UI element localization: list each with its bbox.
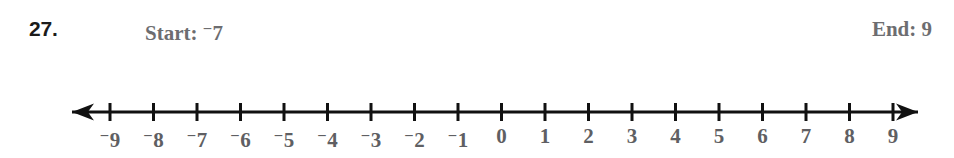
tick-label: −4 xyxy=(317,125,337,151)
tick-labels: −9−8−7−6−5−4−3−2−10123456789 xyxy=(0,88,954,158)
number-line-figure: −9−8−7−6−5−4−3−2−10123456789 xyxy=(0,88,954,158)
tick-label-negative-sign: − xyxy=(274,126,284,145)
tick-label: 9 xyxy=(888,125,899,147)
tick-label-number: 7 xyxy=(197,128,208,152)
start-negative-sign: − xyxy=(203,19,213,38)
problem-number: 27. xyxy=(29,18,58,40)
tick-label: −7 xyxy=(187,125,207,151)
tick-label: −6 xyxy=(230,125,250,151)
problem-header: 27. Start: −7 End: 9 xyxy=(0,0,954,58)
tick-label-negative-sign: − xyxy=(361,126,371,145)
end-text: End: xyxy=(872,17,916,41)
tick-label-negative-sign: − xyxy=(230,126,240,145)
end-value-label: End: 9 xyxy=(872,18,932,40)
end-number: 9 xyxy=(922,17,933,41)
start-value-label: Start: −7 xyxy=(145,18,223,44)
tick-label: −3 xyxy=(361,125,381,151)
tick-label: −2 xyxy=(404,125,424,151)
tick-label: −5 xyxy=(274,125,294,151)
tick-label-number: 9 xyxy=(110,128,121,152)
tick-label: −9 xyxy=(100,125,120,151)
tick-label: 0 xyxy=(496,125,507,147)
tick-label: 4 xyxy=(670,125,681,147)
tick-label-negative-sign: − xyxy=(100,126,110,145)
tick-label-number: 8 xyxy=(153,128,164,152)
tick-label: 5 xyxy=(714,125,725,147)
tick-label-number: 1 xyxy=(458,128,469,152)
start-text: Start: xyxy=(145,21,197,45)
tick-label-number: 5 xyxy=(284,128,295,152)
tick-label: 6 xyxy=(757,125,768,147)
start-number: 7 xyxy=(213,21,224,45)
tick-label-number: 4 xyxy=(327,128,338,152)
tick-label: 7 xyxy=(801,125,812,147)
tick-label-negative-sign: − xyxy=(317,126,327,145)
tick-label: −8 xyxy=(143,125,163,151)
tick-label: 2 xyxy=(583,125,594,147)
tick-label: 1 xyxy=(540,125,551,147)
tick-label: −1 xyxy=(448,125,468,151)
tick-label-number: 6 xyxy=(240,128,251,152)
tick-label: 3 xyxy=(627,125,638,147)
tick-label-number: 2 xyxy=(414,128,425,152)
tick-label: 8 xyxy=(844,125,855,147)
tick-label-negative-sign: − xyxy=(404,126,414,145)
tick-label-negative-sign: − xyxy=(448,126,458,145)
tick-label-negative-sign: − xyxy=(187,126,197,145)
tick-label-negative-sign: − xyxy=(143,126,153,145)
tick-label-number: 3 xyxy=(371,128,382,152)
